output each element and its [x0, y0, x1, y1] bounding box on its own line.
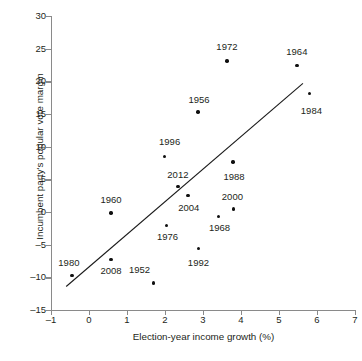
data-point[interactable] [197, 247, 200, 250]
data-point[interactable] [196, 110, 199, 113]
data-point[interactable] [70, 274, 73, 277]
data-point-label: 1972 [216, 42, 237, 52]
data-point-label: 1968 [209, 223, 230, 233]
data-point[interactable] [186, 194, 189, 197]
data-point[interactable] [176, 185, 179, 188]
data-point[interactable] [308, 92, 311, 95]
x-axis-title: Election-year income growth (%) [51, 331, 356, 342]
y-axis-title: Incumbent party's popular vote margin [34, 32, 45, 282]
data-point[interactable] [231, 160, 234, 163]
data-point[interactable] [295, 64, 298, 67]
data-point-label: 1952 [129, 265, 150, 275]
data-point-label: 1988 [223, 172, 244, 182]
data-point-label: 1984 [301, 107, 322, 117]
data-point[interactable] [152, 281, 155, 284]
data-point-label: 1956 [188, 95, 209, 105]
figure-caption-fragment [30, 353, 360, 361]
data-point-label: 2004 [178, 203, 199, 213]
data-point-label: 1960 [100, 195, 121, 205]
data-points-layer: 1952195619601964196819721976198019841988… [0, 0, 362, 361]
data-point[interactable] [109, 258, 112, 261]
data-point-label: 1996 [159, 138, 180, 148]
data-point[interactable] [163, 155, 166, 158]
data-point[interactable] [165, 224, 168, 227]
data-point-label: 2012 [167, 170, 188, 180]
data-point-label: 1964 [286, 48, 307, 58]
data-point-label: 2008 [100, 267, 121, 277]
data-point-label: 1992 [188, 258, 209, 268]
data-point[interactable] [225, 59, 228, 62]
scatter-plot: –15–10–5051015202530 –101234567 19521956… [0, 0, 362, 361]
data-point[interactable] [109, 211, 112, 214]
data-point-label: 1980 [58, 259, 79, 269]
data-point-label: 1976 [157, 233, 178, 243]
data-point-label: 2000 [222, 192, 243, 202]
data-point[interactable] [232, 207, 235, 210]
data-point[interactable] [217, 215, 220, 218]
